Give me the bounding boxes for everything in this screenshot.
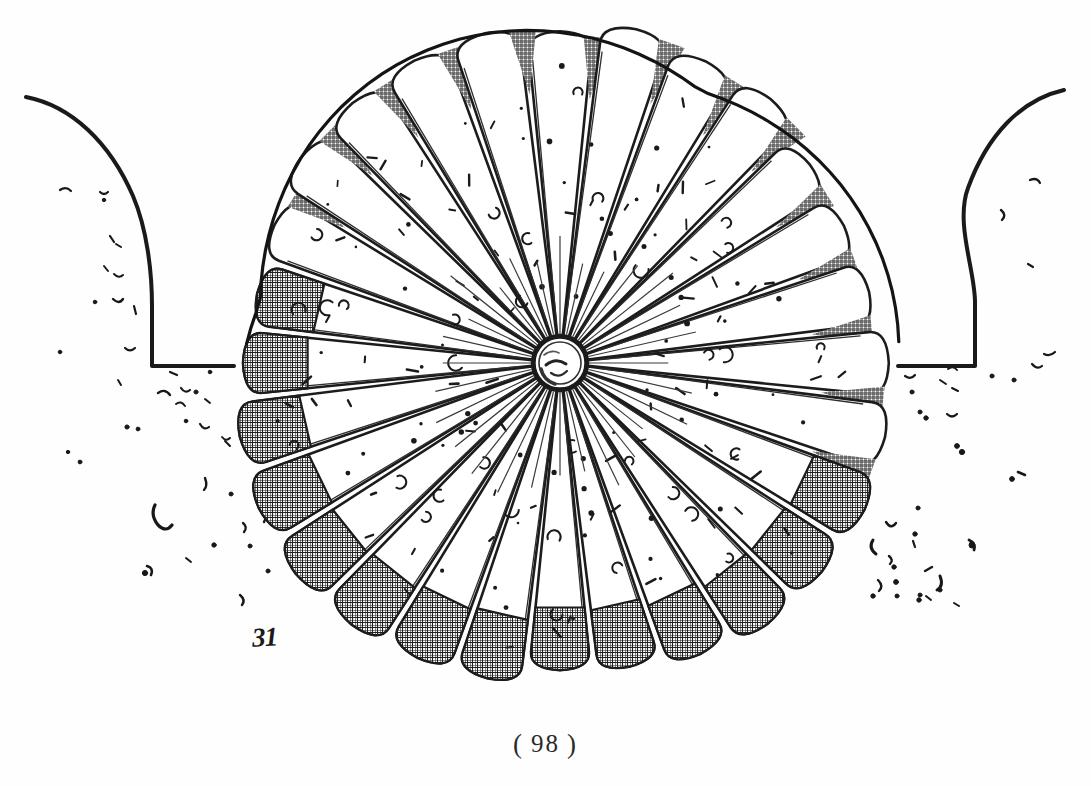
granule-speck: [368, 157, 377, 158]
engraving-plate: 31 (98): [0, 0, 1091, 786]
granule-speck: [658, 185, 659, 191]
granule-speck: [615, 252, 616, 260]
granule-speck: [449, 210, 455, 211]
granule-speck: [504, 605, 509, 610]
granule-speck: [718, 507, 723, 512]
granule-speck: [559, 63, 565, 69]
granule-speck: [346, 471, 351, 476]
rosette-ray-shaded-tip: [531, 608, 589, 671]
granule-speck: [659, 577, 662, 580]
granule-speck: [459, 429, 464, 434]
granule-speck: [582, 486, 587, 491]
granule-speck: [361, 452, 365, 456]
granule-speck: [608, 231, 613, 236]
granule-speck: [464, 122, 467, 125]
granule-speck: [683, 298, 694, 299]
granule-speck: [326, 203, 329, 206]
granule-speck: [406, 222, 411, 227]
granule-speck: [552, 470, 557, 475]
granule-speck: [765, 283, 773, 284]
granule-speck: [648, 557, 652, 561]
granule-speck: [563, 181, 566, 184]
granule-speck: [547, 139, 553, 145]
granule-speck: [422, 161, 423, 166]
granule-speck: [473, 421, 478, 426]
granule-speck: [403, 286, 407, 290]
granule-speck: [520, 107, 523, 110]
granule-speck: [517, 522, 520, 525]
granule-speck: [571, 616, 575, 620]
granule-speck: [320, 351, 323, 354]
granule-speck: [566, 213, 575, 215]
granule-speck: [276, 419, 280, 423]
granule-speck: [465, 411, 470, 416]
rosette-hub: [534, 337, 586, 389]
granule-speck: [420, 365, 424, 369]
granule-speck: [589, 142, 593, 146]
granule-speck: [654, 233, 657, 236]
granule-speck: [801, 420, 805, 424]
granule-speck: [684, 321, 690, 327]
granule-speck: [441, 344, 444, 347]
granule-speck: [642, 244, 647, 249]
granule-speck: [790, 551, 794, 555]
granule-speck: [707, 380, 708, 388]
granule-speck: [649, 516, 654, 521]
granule-speck: [588, 510, 594, 516]
granule-speck: [355, 246, 358, 249]
granule-speck: [716, 573, 719, 576]
granule-speck: [776, 296, 781, 301]
granule-speck: [723, 319, 727, 323]
rosette-ray-shaded-tip: [243, 333, 308, 393]
engraving-illustration: [0, 0, 1091, 786]
granule-speck: [493, 586, 497, 590]
granule-speck: [583, 533, 587, 537]
granule-speck: [518, 453, 523, 458]
granule-speck: [645, 388, 648, 391]
granule-speck: [411, 438, 417, 444]
granule-speck: [714, 392, 719, 397]
granule-speck: [654, 145, 659, 150]
granule-speck: [522, 137, 525, 140]
granule-speck: [772, 393, 775, 396]
granule-speck: [419, 422, 422, 425]
granule-speck: [441, 444, 444, 447]
granule-speck: [682, 98, 684, 106]
granule-speck: [371, 493, 376, 495]
granule-speck: [506, 647, 513, 648]
granule-speck: [440, 569, 444, 573]
granule-speck: [735, 281, 739, 285]
granule-speck: [600, 216, 605, 221]
granule-speck: [708, 146, 711, 149]
granule-speck: [494, 490, 495, 495]
granule-speck: [635, 198, 639, 202]
